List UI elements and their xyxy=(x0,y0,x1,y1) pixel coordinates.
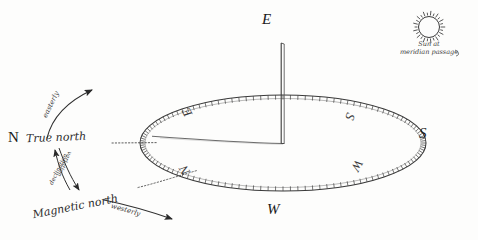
figure-canvas: E S W N True north Magnetic north easter… xyxy=(0,0,478,240)
outer-cardinal-west: W xyxy=(267,202,280,217)
outer-cardinal-south: S xyxy=(419,126,427,141)
sun-icon xyxy=(413,11,445,43)
true-north-prefix: N xyxy=(8,130,19,145)
true-north-label: True north xyxy=(26,131,87,145)
sun-caption-line2: meridian passage xyxy=(392,48,466,56)
shadow-line xyxy=(152,136,283,144)
outer-cardinal-east: E xyxy=(262,12,271,27)
gnomon-style xyxy=(281,43,284,144)
sun-caption-line1: Sun at xyxy=(396,40,462,48)
